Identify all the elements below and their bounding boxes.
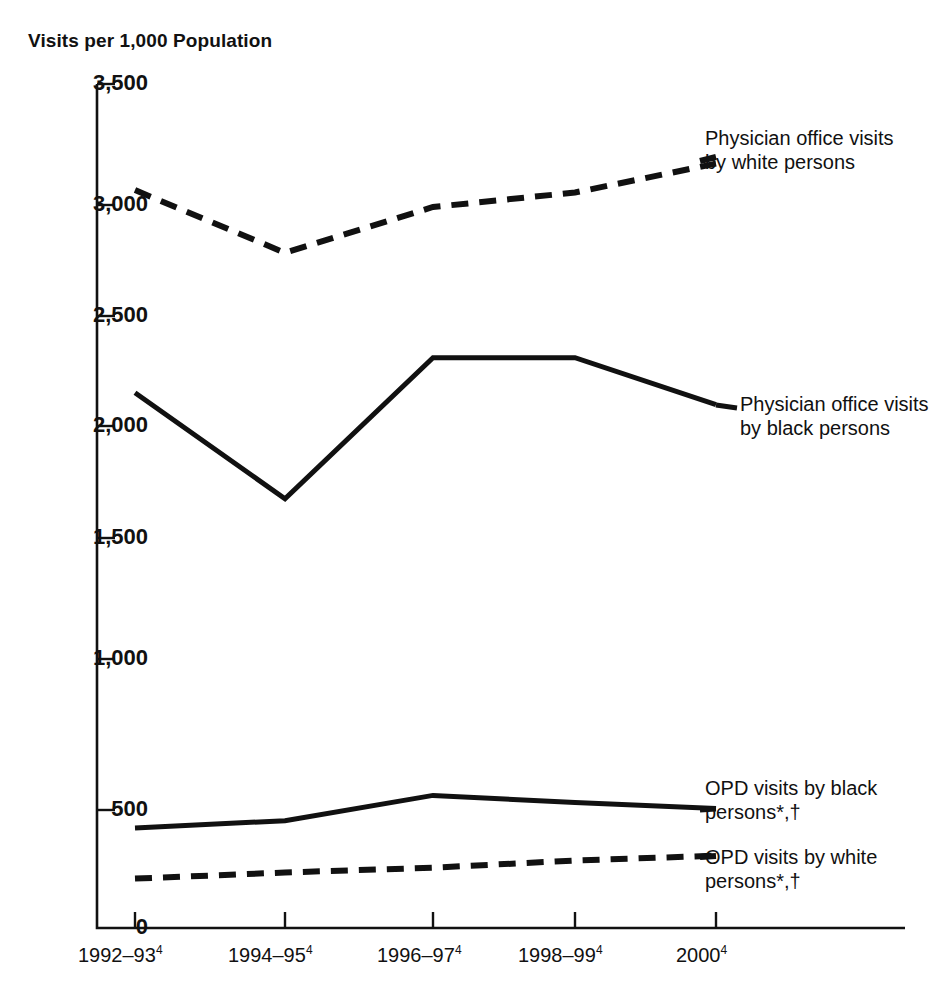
series-line-opd-black [135, 795, 716, 828]
axis-lines [97, 84, 905, 928]
chart-figure: Visits per 1,000 Population 3,500 3,000 … [0, 0, 940, 986]
leader-physician-black [716, 405, 737, 408]
series-line-opd-white [135, 856, 716, 879]
y-tick-marks [97, 84, 115, 810]
series-line-physician-white [135, 164, 716, 253]
leader-opd-white [700, 856, 716, 857]
leader-opd-black [700, 809, 716, 810]
leader-physician-white [700, 157, 716, 161]
x-tick-marks [135, 912, 716, 928]
chart-canvas [0, 0, 940, 986]
series-line-physician-black [135, 358, 716, 499]
